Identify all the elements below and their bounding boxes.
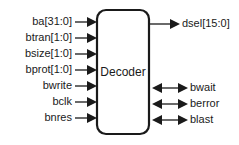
bidirectional-signal-label: blast — [190, 114, 213, 125]
input-signal-label: ba[31:0] — [0, 16, 72, 27]
arrowhead-left-icon — [152, 99, 162, 109]
input-signal-label: bsize[1:0] — [0, 48, 72, 59]
bidirectional-signal-lines — [152, 83, 188, 125]
arrowhead-left-icon — [152, 115, 162, 125]
arrowhead-right-icon — [170, 19, 180, 29]
arrowhead-right-icon — [87, 81, 97, 91]
output-signal-lines — [149, 19, 180, 29]
arrowhead-right-icon — [87, 49, 97, 59]
input-signal-lines — [75, 17, 97, 123]
arrowhead-right-icon — [87, 65, 97, 75]
arrowhead-right-icon — [87, 97, 97, 107]
arrowhead-right-icon — [178, 115, 188, 125]
output-signal-label: dsel[15:0] — [182, 18, 230, 29]
arrowhead-right-icon — [87, 17, 97, 27]
bidirectional-signal-label: berror — [190, 98, 219, 109]
arrowhead-right-icon — [87, 113, 97, 123]
decoder-block-diagram: Decoder ba[31:0]btran[1:0]bsize[1:0]bpro… — [0, 0, 239, 145]
input-signal-label: bnres — [0, 112, 72, 123]
bidirectional-signal-label: bwait — [190, 82, 216, 93]
input-signal-label: bwrite — [0, 80, 72, 91]
input-signal-label: bprot[1:0] — [0, 64, 72, 75]
arrowhead-right-icon — [178, 99, 188, 109]
arrowhead-left-icon — [152, 83, 162, 93]
arrowhead-right-icon — [87, 33, 97, 43]
decoder-block-label: Decoder — [97, 66, 149, 78]
input-signal-label: bclk — [0, 96, 72, 107]
input-signal-label: btran[1:0] — [0, 32, 72, 43]
arrowhead-right-icon — [178, 83, 188, 93]
